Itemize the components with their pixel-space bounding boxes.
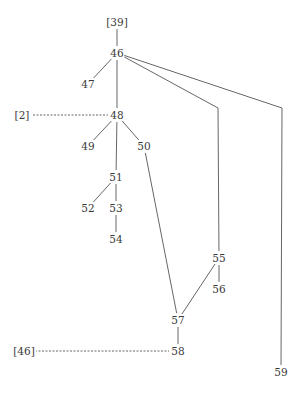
edge-46-47	[93, 58, 112, 79]
tree-node: 53	[108, 202, 123, 214]
tree-node: 54	[108, 233, 123, 245]
tree-node: 52	[80, 202, 95, 214]
edge-55-57	[182, 264, 215, 314]
tree-node: 55	[211, 252, 226, 264]
tree-node: 50	[136, 140, 151, 152]
tree-node: 57	[170, 314, 185, 326]
reference-node: [2]	[14, 109, 31, 121]
edge-50-57	[145, 153, 176, 313]
tree-node: 49	[80, 140, 95, 152]
tree-node: 51	[108, 171, 123, 183]
diagram-edges	[0, 0, 299, 396]
edge-46-59	[124, 55, 282, 365]
stemma-diagram: [39]4647[2]48495051525354555657[46]5859	[0, 0, 299, 396]
tree-node: 58	[170, 345, 185, 357]
tree-node: 59	[273, 366, 288, 378]
tree-node: 56	[211, 283, 226, 295]
reference-node: [39]	[105, 16, 129, 28]
edge-46-55	[123, 56, 219, 251]
tree-node: 46	[109, 47, 124, 59]
tree-node: 48	[109, 109, 124, 121]
edge-48-50	[122, 120, 140, 140]
edge-48-49	[93, 120, 112, 141]
reference-node: [46]	[12, 345, 36, 357]
edge-51-52	[93, 182, 112, 203]
tree-node: 47	[80, 78, 95, 90]
edge-48-51	[116, 122, 117, 170]
